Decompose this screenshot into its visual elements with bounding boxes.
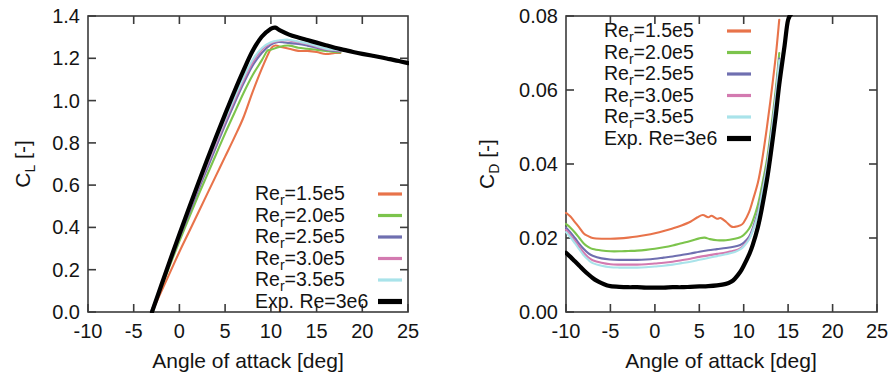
cl-y-tick-4: 0.8 xyxy=(52,132,80,154)
cl-y-tick-1: 0.2 xyxy=(52,259,80,281)
cd-y-tick-2: 0.04 xyxy=(519,153,558,175)
cl-plot-svg: 0.0 0.2 0.4 0.6 0.8 1.0 1.2 1.4 -10 -5 0… xyxy=(0,0,445,378)
cd-x-tick-6: 20 xyxy=(821,320,843,342)
cl-x-tick-3: 5 xyxy=(220,320,231,342)
cd-y-axis-title-main: C xyxy=(475,174,498,189)
cd-x-tick-5: 15 xyxy=(777,320,799,342)
lift-coefficient-panel: 0.0 0.2 0.4 0.6 0.8 1.0 1.2 1.4 -10 -5 0… xyxy=(0,0,445,378)
cd-legend: Rer=1.5e5Rer=2.0e5Rer=2.5e5Rer=3.0e5Rer=… xyxy=(604,19,751,149)
cl-y-axis-title-unit: [-] xyxy=(11,140,34,165)
svg-text:CD [-]: CD [-] xyxy=(475,139,502,189)
cl-y-tick-2: 0.4 xyxy=(52,216,80,238)
cl-y-tick-labels: 0.0 0.2 0.4 0.6 0.8 1.0 1.2 1.4 xyxy=(52,5,80,323)
cd-x-tick-1: -5 xyxy=(602,320,620,342)
cd-x-tick-labels: -10 -5 0 5 10 15 20 25 xyxy=(552,320,889,342)
cl-x-axis-title: Angle of attack [deg] xyxy=(152,349,343,372)
cl-y-axis-title: CL [-] xyxy=(11,140,38,187)
cl-y-tick-6: 1.2 xyxy=(52,47,80,69)
cd-x-tick-3: 5 xyxy=(694,320,705,342)
cd-y-axis-title-unit: [-] xyxy=(475,139,498,164)
cd-y-axis-title-sub: D xyxy=(486,164,502,174)
cl-x-tick-labels: -10 -5 0 5 10 15 20 25 xyxy=(74,320,420,342)
cl-x-tick-0: -10 xyxy=(74,320,103,342)
cd-y-tick-labels: 0.00 0.02 0.04 0.06 0.08 xyxy=(519,5,558,323)
cd-y-tick-3: 0.06 xyxy=(519,79,558,101)
cl-y-axis-title-sub: L xyxy=(22,165,38,173)
cl-x-tick-5: 15 xyxy=(305,320,327,342)
legend-label-5: Exp. Re=3e6 xyxy=(604,127,717,149)
cd-y-axis-title: CD [-] xyxy=(475,139,502,189)
cl-x-tick-7: 25 xyxy=(397,320,419,342)
figure-container: 0.0 0.2 0.4 0.6 0.8 1.0 1.2 1.4 -10 -5 0… xyxy=(0,0,889,378)
drag-coefficient-panel: 0.00 0.02 0.04 0.06 0.08 -10 -5 0 5 10 1… xyxy=(444,0,889,378)
cd-x-tick-4: 10 xyxy=(733,320,755,342)
cl-x-tick-4: 10 xyxy=(260,320,282,342)
cl-y-tick-5: 1.0 xyxy=(52,90,80,112)
cl-legend: Rer=1.5e5Rer=2.0e5Rer=2.5e5Rer=3.0e5Rer=… xyxy=(255,182,402,312)
cl-y-tick-7: 1.4 xyxy=(52,5,80,27)
cl-y-axis-title-main: C xyxy=(11,173,34,188)
cd-y-tick-4: 0.08 xyxy=(519,5,558,27)
cd-y-tick-1: 0.02 xyxy=(519,227,558,249)
cd-x-tick-2: 0 xyxy=(649,320,660,342)
cl-y-tick-3: 0.6 xyxy=(52,174,80,196)
cd-x-tick-7: 25 xyxy=(866,320,888,342)
svg-text:CL [-]: CL [-] xyxy=(11,140,38,187)
cl-x-tick-6: 20 xyxy=(351,320,373,342)
cd-plot-svg: 0.00 0.02 0.04 0.06 0.08 -10 -5 0 5 10 1… xyxy=(444,0,889,378)
cd-x-tick-0: -10 xyxy=(552,320,581,342)
cl-x-tick-2: 0 xyxy=(174,320,185,342)
legend-label-5: Exp. Re=3e6 xyxy=(255,290,368,312)
cd-x-axis-title: Angle of attack [deg] xyxy=(625,349,816,372)
cl-x-tick-1: -5 xyxy=(125,320,143,342)
